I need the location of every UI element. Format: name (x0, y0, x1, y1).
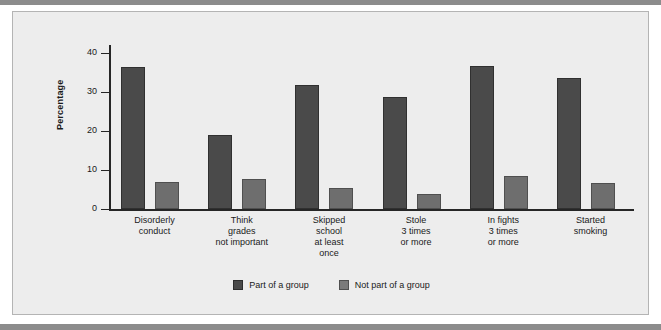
category-label: Disorderlyconduct (112, 215, 198, 237)
x-axis-category-labels: DisorderlyconductThinkgradesnot importan… (111, 215, 634, 275)
category-label-line: or more (373, 237, 459, 248)
category-label: Thinkgradesnot important (199, 215, 285, 248)
chart-panel: Percentage 010203040 DisorderlyconductTh… (12, 11, 649, 315)
category-label-line: Stole (373, 215, 459, 226)
bar[interactable] (591, 183, 615, 209)
legend-swatch-icon (339, 280, 349, 290)
category-label-line: at least (286, 237, 372, 248)
bar[interactable] (242, 179, 266, 209)
y-tick-0: 0 (101, 209, 109, 210)
y-tick-40: 40 (101, 53, 109, 54)
chart-figure: Percentage 010203040 DisorderlyconductTh… (0, 0, 661, 330)
y-tick-10: 10 (101, 170, 109, 171)
plot-area: Percentage 010203040 DisorderlyconductTh… (13, 12, 650, 316)
bar[interactable] (470, 66, 494, 209)
legend-swatch-icon (233, 280, 243, 290)
y-tick-label: 20 (87, 125, 97, 135)
category-label-line: smoking (547, 226, 633, 237)
bar-group (198, 45, 285, 209)
chart-legend: Part of a groupNot part of a group (13, 280, 650, 290)
bottom-divider-rule (0, 324, 661, 330)
bar-group (547, 45, 634, 209)
bar[interactable] (417, 194, 441, 209)
y-tick-label: 0 (92, 203, 97, 213)
category-label-line: 3 times (460, 226, 546, 237)
category-label-line: Think (199, 215, 285, 226)
bar[interactable] (121, 67, 145, 209)
category-label-line: not important (199, 237, 285, 248)
bar[interactable] (557, 78, 581, 209)
y-tick-label: 30 (87, 86, 97, 96)
legend-item[interactable]: Not part of a group (339, 280, 430, 290)
y-tick-label: 40 (87, 47, 97, 57)
bar[interactable] (329, 188, 353, 209)
category-label: Skippedschoolat leastonce (286, 215, 372, 259)
category-label-line: Skipped (286, 215, 372, 226)
category-label-line: school (286, 226, 372, 237)
category-label-line: Started (547, 215, 633, 226)
category-label-line: or more (460, 237, 546, 248)
y-tick-label: 10 (87, 164, 97, 174)
bar[interactable] (155, 182, 179, 209)
bar[interactable] (208, 135, 232, 209)
top-divider-rule (0, 0, 661, 5)
bar-group (111, 45, 198, 209)
category-label-line: In fights (460, 215, 546, 226)
y-tick-20: 20 (101, 131, 109, 132)
category-label-line: grades (199, 226, 285, 237)
y-tick-30: 30 (101, 92, 109, 93)
category-label: Startedsmoking (547, 215, 633, 237)
legend-item[interactable]: Part of a group (233, 280, 309, 290)
bar-group (285, 45, 372, 209)
category-label-line: conduct (112, 226, 198, 237)
bar[interactable] (383, 97, 407, 209)
x-axis-line (109, 209, 634, 211)
bar-group (460, 45, 547, 209)
category-label-line: 3 times (373, 226, 459, 237)
category-label: In fights3 timesor more (460, 215, 546, 248)
bar-group (373, 45, 460, 209)
legend-label: Not part of a group (355, 280, 430, 290)
category-label-line: Disorderly (112, 215, 198, 226)
category-label-line: once (286, 248, 372, 259)
bar[interactable] (504, 176, 528, 209)
category-label: Stole3 timesor more (373, 215, 459, 248)
legend-label: Part of a group (249, 280, 309, 290)
bar[interactable] (295, 85, 319, 209)
y-axis-title: Percentage (55, 79, 65, 130)
bar-series-container (111, 45, 634, 209)
